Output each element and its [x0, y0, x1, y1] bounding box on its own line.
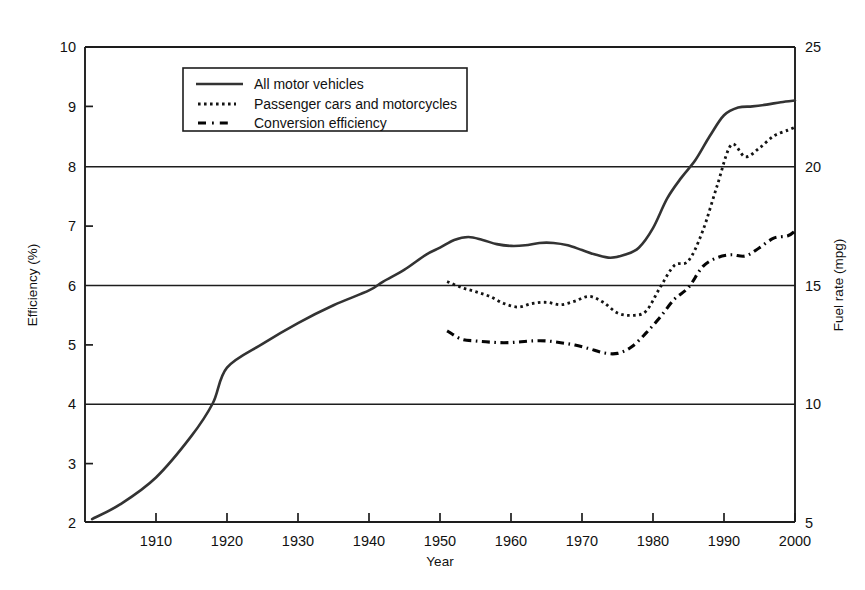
ytick-label-10: 10 — [60, 39, 76, 55]
xtick-label-1920: 1920 — [211, 533, 243, 549]
x-axis-title: Year — [426, 554, 454, 569]
series-passenger-cars-and-motorcycles — [447, 127, 795, 315]
ytick-label-8: 8 — [68, 159, 76, 175]
y2tick-label-15: 15 — [805, 278, 821, 294]
ytick-label-5: 5 — [68, 337, 76, 353]
xtick-label-1970: 1970 — [566, 533, 598, 549]
series-all-motor-vehicles — [92, 100, 795, 519]
x-axis-ticks: 1910 1920 1930 1940 1950 1960 1970 1980 … — [140, 513, 811, 549]
ytick-label-3: 3 — [68, 456, 76, 472]
ytick-label-4: 4 — [68, 396, 76, 412]
xtick-label-1910: 1910 — [140, 533, 172, 549]
legend: All motor vehicles Passenger cars and mo… — [183, 68, 467, 131]
xtick-label-1940: 1940 — [353, 533, 385, 549]
series-conversion-efficiency — [447, 231, 795, 354]
data-series — [92, 100, 795, 519]
xtick-label-2000: 2000 — [779, 533, 811, 549]
y2tick-label-20: 20 — [805, 159, 821, 175]
legend-label-all-motor-vehicles: All motor vehicles — [254, 76, 364, 92]
xtick-label-1980: 1980 — [637, 533, 669, 549]
ytick-label-9: 9 — [68, 99, 76, 115]
ytick-label-6: 6 — [68, 278, 76, 294]
chart-figure: 10 9 8 7 6 5 4 3 2 25 20 15 10 5 — [0, 0, 865, 590]
efficiency-fuel-rate-chart: 10 9 8 7 6 5 4 3 2 25 20 15 10 5 — [0, 0, 865, 590]
y2tick-label-10: 10 — [805, 396, 821, 412]
y2tick-label-25: 25 — [805, 39, 821, 55]
y2tick-label-5: 5 — [805, 515, 813, 531]
ytick-label-7: 7 — [68, 218, 76, 234]
legend-label-passenger-cars-and-motorcycles: Passenger cars and motorcycles — [254, 96, 457, 112]
xtick-label-1990: 1990 — [708, 533, 740, 549]
y-axis-title: Efficiency (%) — [25, 244, 40, 326]
legend-label-conversion-efficiency: Conversion efficiency — [254, 115, 387, 131]
ytick-label-2: 2 — [68, 515, 76, 531]
xtick-label-1960: 1960 — [495, 533, 527, 549]
xtick-label-1930: 1930 — [282, 533, 314, 549]
y2-axis-title: Fuel rate (mpg) — [831, 239, 846, 331]
xtick-label-1950: 1950 — [424, 533, 456, 549]
